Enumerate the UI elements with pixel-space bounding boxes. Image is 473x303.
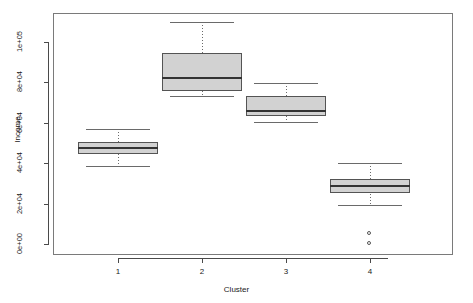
- y-tick-label: 1e+05: [15, 25, 24, 59]
- y-tick-mark: [44, 82, 49, 83]
- x-tick-mark: [370, 258, 371, 263]
- upper-whisker-cap: [86, 129, 150, 130]
- y-tick-mark: [44, 244, 49, 245]
- y-tick-label: 8e+04: [15, 65, 24, 99]
- y-tick-mark: [44, 163, 49, 164]
- lower-whisker-cap: [170, 96, 234, 97]
- lower-whisker-line: [370, 194, 371, 205]
- x-tick-label: 1: [103, 267, 133, 276]
- upper-whisker-cap: [338, 163, 402, 164]
- y-axis-title: Income: [13, 100, 22, 160]
- box-iqr: [162, 53, 242, 91]
- plot-frame: [53, 13, 453, 255]
- upper-whisker-cap: [254, 83, 318, 84]
- median-line: [78, 147, 158, 149]
- upper-whisker-cap: [170, 22, 234, 23]
- median-line: [330, 185, 410, 187]
- y-tick-mark: [44, 42, 49, 43]
- box-iqr: [246, 96, 326, 116]
- y-axis-line: [48, 42, 49, 244]
- outlier-point: [367, 241, 371, 245]
- x-tick-label: 3: [271, 267, 301, 276]
- lower-whisker-line: [118, 154, 119, 166]
- x-tick-mark: [202, 258, 203, 263]
- x-axis-line: [118, 258, 388, 259]
- upper-whisker-line: [118, 129, 119, 142]
- upper-whisker-line: [202, 22, 203, 53]
- upper-whisker-line: [286, 83, 287, 95]
- x-tick-label: 2: [187, 267, 217, 276]
- x-tick-mark: [286, 258, 287, 263]
- y-tick-label: 0e+00: [15, 227, 24, 261]
- upper-whisker-line: [370, 163, 371, 179]
- x-tick-mark: [118, 258, 119, 263]
- outlier-point: [367, 231, 371, 235]
- y-tick-mark: [44, 123, 49, 124]
- x-axis-title: Cluster: [0, 285, 473, 294]
- boxplot-figure: 0e+002e+044e+046e+048e+041e+05 1234 Inco…: [0, 0, 473, 303]
- median-line: [162, 77, 242, 79]
- lower-whisker-cap: [86, 166, 150, 167]
- y-tick-mark: [44, 204, 49, 205]
- lower-whisker-cap: [338, 205, 402, 206]
- lower-whisker-cap: [254, 122, 318, 123]
- y-tick-label: 2e+04: [15, 186, 24, 220]
- x-tick-label: 4: [355, 267, 385, 276]
- median-line: [246, 110, 326, 112]
